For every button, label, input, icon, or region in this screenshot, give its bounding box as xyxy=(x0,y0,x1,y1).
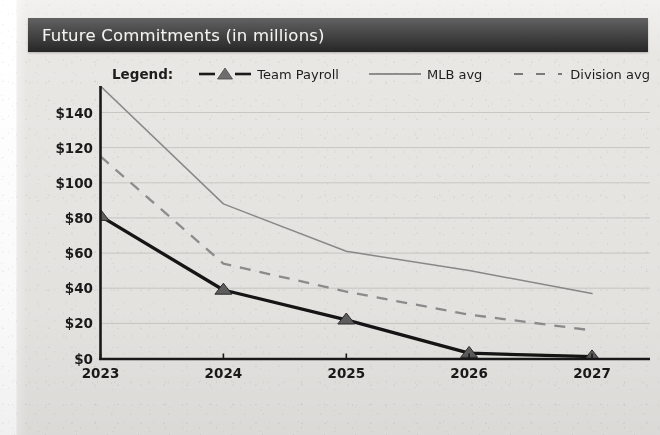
y-axis-tick-labels: $0$20$40$60$80$100$120$140 xyxy=(55,105,93,367)
y-axis-tick-label: $140 xyxy=(55,105,93,121)
line-chart: $0$20$40$60$80$100$120$140 2023202420252… xyxy=(0,0,660,435)
x-axis-tick-label: 2026 xyxy=(450,365,488,381)
x-axis-tick-label: 2025 xyxy=(328,365,366,381)
x-axis-tick-label: 2024 xyxy=(205,365,243,381)
y-axis-tick-label: $100 xyxy=(55,175,93,191)
scanned-page: Future Commitments (in millions) Legend:… xyxy=(0,0,660,435)
x-axis-tick-label: 2027 xyxy=(573,365,611,381)
chart-axes xyxy=(99,86,650,360)
y-axis-tick-label: $120 xyxy=(55,140,93,156)
y-axis-tick-label: $20 xyxy=(65,315,93,331)
x-axis-tick-label: 2023 xyxy=(82,365,120,381)
series-line-team-payroll xyxy=(101,216,593,357)
y-axis-tick-label: $40 xyxy=(65,280,93,296)
chart-series-group xyxy=(92,86,601,361)
y-axis-tick-label: $60 xyxy=(65,245,93,261)
chart-gridlines xyxy=(101,113,650,324)
x-axis-tick-labels: 20232024202520262027 xyxy=(82,365,611,381)
series-markers-team-payroll xyxy=(92,209,601,361)
y-axis-tick-label: $80 xyxy=(65,210,93,226)
